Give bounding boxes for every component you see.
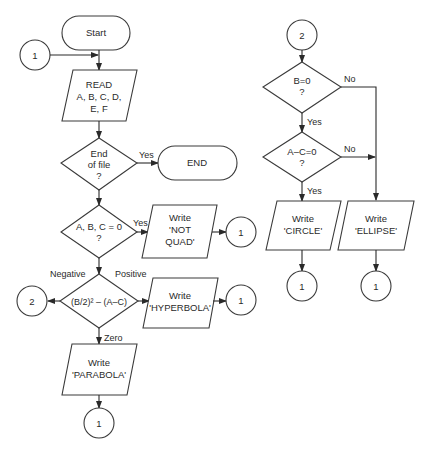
eof-label-line3: ? (96, 170, 101, 181)
connector-1-entry: 1 (20, 40, 50, 70)
hyperbola-io-box: Write 'HYPERBOLA' (143, 278, 218, 328)
b0-label-line1: B=0 (293, 75, 310, 86)
parabola-io-box: Write 'PARABOLA' (62, 344, 137, 395)
svg-text:A–C=0: A–C=0 (287, 146, 316, 157)
end-label: END (187, 157, 207, 168)
svg-text:?: ? (96, 170, 101, 181)
svg-text:2: 2 (29, 296, 34, 307)
notquad-label-line1: Write (169, 212, 191, 223)
parabola-label-line1: Write (88, 357, 110, 368)
svg-text:END: END (187, 157, 207, 168)
connector-label: 1 (96, 418, 101, 429)
connector-label: 1 (32, 50, 37, 61)
start-label: Start (86, 27, 106, 38)
svg-text:A, B, C = 0: A, B, C = 0 (76, 221, 122, 232)
edge-label-eof-yes: Yes (139, 150, 154, 160)
edge-label-zero: Zero (104, 333, 123, 343)
svg-text:?: ? (299, 157, 304, 168)
svg-text:'PARABOLA': 'PARABOLA' (72, 369, 126, 380)
ellipse-io-box: Write 'ELLIPSE' (338, 201, 414, 250)
connector-2-in: 2 (287, 20, 317, 50)
svg-text:1: 1 (96, 418, 101, 429)
ac0-label-line2: ? (299, 157, 304, 168)
svg-text:Write: Write (88, 357, 110, 368)
discriminant-decision: (B/2)² – (A–C) (60, 274, 138, 328)
read-label-line3: E, F (90, 103, 108, 114)
svg-text:READ: READ (86, 79, 113, 90)
read-label-line2: A, B, C, D, (77, 91, 122, 102)
read-label-line1: READ (86, 79, 113, 90)
svg-text:'NOT: 'NOT (169, 224, 191, 235)
svg-text:(B/2)² – (A–C): (B/2)² – (A–C) (71, 297, 127, 307)
edge-label-positive: Positive (115, 269, 147, 279)
connector-label: 1 (299, 281, 304, 292)
svg-text:1: 1 (238, 227, 243, 238)
edge-label-b0-yes: Yes (307, 117, 322, 127)
hyperbola-label-line2: 'HYPERBOLA' (149, 302, 211, 313)
svg-text:1: 1 (373, 281, 378, 292)
edge-label-abc0-yes: Yes (133, 218, 148, 228)
ellipse-label-line1: Write (365, 213, 387, 224)
connector-label: 2 (29, 296, 34, 307)
svg-text:of file: of file (88, 159, 111, 170)
circle-label-line1: Write (292, 213, 314, 224)
svg-text:1: 1 (299, 281, 304, 292)
abc-zero-decision: A, B, C = 0 ? (61, 205, 137, 258)
eof-label-line1: End (91, 148, 108, 159)
svg-text:QUAD': QUAD' (165, 236, 194, 247)
edge-label-ac0-yes: Yes (307, 186, 322, 196)
end-terminal: END (158, 146, 237, 180)
svg-text:End: End (91, 148, 108, 159)
svg-text:'ELLIPSE': 'ELLIPSE' (355, 225, 397, 236)
svg-text:'HYPERBOLA': 'HYPERBOLA' (149, 302, 211, 313)
disc-label: (B/2)² – (A–C) (71, 297, 127, 307)
svg-text:1: 1 (238, 295, 243, 306)
edge-label-negative: Negative (50, 269, 86, 279)
svg-text:E, F: E, F (90, 103, 108, 114)
svg-text:Write: Write (365, 213, 387, 224)
a-minus-c-zero-decision: A–C=0 ? (263, 132, 341, 182)
flowchart-canvas: Start 1 READ A, B, C, D, E, F End of fil… (0, 0, 427, 451)
svg-text:'CIRCLE': 'CIRCLE' (284, 225, 323, 236)
abc0-label-line2: ? (96, 232, 101, 243)
circle-label-line2: 'CIRCLE' (284, 225, 323, 236)
circle-io-box: Write 'CIRCLE' (266, 201, 341, 250)
parabola-label-line2: 'PARABOLA' (72, 369, 126, 380)
connector-1-notquad: 1 (226, 217, 256, 247)
connector-label: 1 (373, 281, 378, 292)
svg-text:1: 1 (32, 50, 37, 61)
b0-label-line2: ? (299, 86, 304, 97)
start-terminal: Start (62, 16, 130, 50)
svg-text:?: ? (96, 232, 101, 243)
connector-1-ellipse: 1 (361, 271, 391, 301)
notquad-label-line2: 'NOT (169, 224, 191, 235)
hyperbola-label-line1: Write (169, 290, 191, 301)
connector-label: 2 (299, 30, 304, 41)
connector-1-circle: 1 (287, 271, 317, 301)
eof-decision: End of file ? (61, 138, 137, 190)
connector-1-hyperbola: 1 (226, 285, 256, 315)
svg-text:?: ? (299, 86, 304, 97)
svg-text:Write: Write (169, 212, 191, 223)
ac0-label-line1: A–C=0 (287, 146, 316, 157)
svg-text:B=0: B=0 (293, 75, 310, 86)
svg-text:Write: Write (292, 213, 314, 224)
ellipse-label-line2: 'ELLIPSE' (355, 225, 397, 236)
connector-2-out: 2 (17, 286, 47, 316)
connector-label: 1 (238, 295, 243, 306)
connector-label: 1 (238, 227, 243, 238)
svg-text:2: 2 (299, 30, 304, 41)
b-zero-decision: B=0 ? (263, 62, 341, 113)
read-io-box: READ A, B, C, D, E, F (62, 70, 137, 121)
not-quad-io-box: Write 'NOT QUAD' (142, 205, 217, 258)
connector-1-parabola: 1 (84, 408, 114, 438)
edge-label-b0-no: No (344, 74, 356, 84)
edge-label-ac0-no: No (344, 144, 356, 154)
svg-text:Write: Write (169, 290, 191, 301)
eof-label-line2: of file (88, 159, 111, 170)
svg-text:A, B, C, D,: A, B, C, D, (77, 91, 122, 102)
svg-text:Start: Start (86, 27, 106, 38)
notquad-label-line3: QUAD' (165, 236, 194, 247)
abc0-label-line1: A, B, C = 0 (76, 221, 122, 232)
